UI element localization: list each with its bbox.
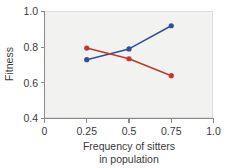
x-axis-ticks: [45, 119, 214, 124]
plot-area-background: [44, 11, 213, 118]
x-axis-title-line2: in population: [99, 153, 159, 165]
series-rovers-point: [169, 23, 174, 28]
x-tick-label: 0.75: [161, 125, 182, 137]
y-tick-label: 1.0: [23, 5, 38, 17]
x-tick-label: 0: [42, 125, 48, 137]
fitness-vs-sitter-frequency-chart: 1.0 0.8 0.6 0.4 0 0.25 0.5 0.75 1.0 Fitn…: [0, 0, 234, 168]
series-sitters-point: [169, 73, 174, 78]
y-tick-label: 0.6: [23, 77, 38, 89]
y-tick-label: 0.8: [23, 41, 38, 53]
series-sitters-point: [84, 45, 89, 50]
y-axis-title: Fitness: [3, 47, 15, 81]
x-tick-label: 0.5: [122, 125, 137, 137]
y-tick-label: 0.4: [23, 112, 38, 124]
chart-canvas: 1.0 0.8 0.6 0.4 0 0.25 0.5 0.75 1.0 Fitn…: [0, 0, 234, 168]
series-rovers-point: [126, 46, 131, 51]
y-axis-ticks: [41, 12, 45, 119]
x-tick-label: 1.0: [206, 125, 221, 137]
x-tick-label: 0.25: [77, 125, 98, 137]
series-sitters-point: [126, 56, 131, 61]
x-axis-title-line1: Frequency of sitters: [83, 140, 175, 152]
series-rovers-point: [84, 57, 89, 62]
